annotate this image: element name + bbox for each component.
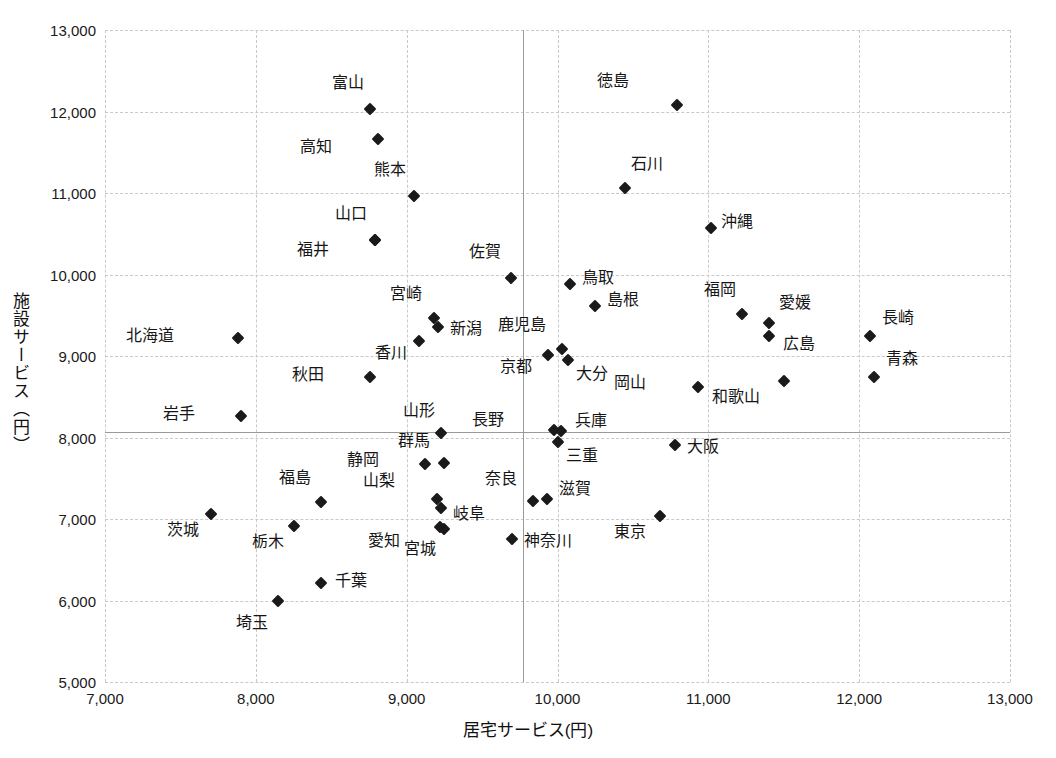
- data-point-marker[interactable]: [868, 371, 881, 384]
- data-point-marker[interactable]: [670, 99, 683, 112]
- data-point-marker[interactable]: [438, 456, 451, 469]
- data-point-label: 群馬: [398, 433, 430, 449]
- data-point-label: 石川: [631, 156, 663, 172]
- x-axis-tick-label: 10,000: [513, 690, 603, 707]
- data-point-label: 山形: [403, 403, 435, 419]
- data-point-label: 熊本: [374, 162, 406, 178]
- data-point-marker[interactable]: [654, 509, 667, 522]
- gridline-vertical: [558, 30, 559, 682]
- data-point-marker[interactable]: [418, 457, 431, 470]
- data-point-marker[interactable]: [762, 329, 775, 342]
- data-point-marker[interactable]: [589, 300, 602, 313]
- data-point-marker[interactable]: [542, 349, 555, 362]
- data-point-label: 鳥取: [582, 270, 614, 286]
- data-point-label: 沖縄: [721, 214, 753, 230]
- data-point-label: 福岡: [704, 282, 736, 298]
- data-point-marker[interactable]: [563, 278, 576, 291]
- data-point-marker[interactable]: [504, 271, 517, 284]
- data-point-label: 長崎: [882, 310, 914, 326]
- y-axis-tick-label: 9,000: [0, 348, 96, 365]
- data-point-label: 大分: [576, 366, 608, 382]
- data-point-label: 青森: [886, 351, 918, 367]
- data-point-marker[interactable]: [287, 520, 300, 533]
- data-point-label: 福島: [279, 470, 311, 486]
- data-point-label: 和歌山: [712, 389, 760, 405]
- y-axis-tick-label: 6,000: [0, 592, 96, 609]
- data-point-label: 富山: [332, 75, 364, 91]
- data-point-label: 岐阜: [453, 506, 485, 522]
- data-point-label: 奈良: [485, 471, 517, 487]
- y-axis-tick-label: 11,000: [0, 185, 96, 202]
- x-axis-tick-label: 13,000: [965, 690, 1055, 707]
- data-point-label: 新潟: [450, 321, 482, 337]
- gridline-vertical: [407, 30, 408, 682]
- data-point-marker[interactable]: [272, 595, 285, 608]
- data-point-label: 神奈川: [524, 533, 572, 549]
- data-point-marker[interactable]: [669, 438, 682, 451]
- data-point-label: 徳島: [597, 73, 629, 89]
- x-axis-tick-label: 9,000: [362, 690, 452, 707]
- y-axis-tick-label: 5,000: [0, 674, 96, 691]
- data-point-label: 兵庫: [575, 413, 607, 429]
- data-point-label: 三重: [566, 448, 598, 464]
- data-point-marker[interactable]: [364, 371, 377, 384]
- data-point-marker[interactable]: [527, 495, 540, 508]
- x-axis-tick-label: 8,000: [211, 690, 301, 707]
- data-point-marker[interactable]: [762, 317, 775, 330]
- data-point-label: 大阪: [687, 439, 719, 455]
- data-point-marker[interactable]: [314, 577, 327, 590]
- data-point-label: 宮崎: [390, 286, 422, 302]
- data-point-label: 東京: [614, 524, 646, 540]
- data-point-label: 宮城: [404, 541, 436, 557]
- data-point-marker[interactable]: [691, 381, 704, 394]
- chart-root: 施設サービス（円） 5,0006,0007,0008,0009,00010,00…: [0, 0, 1056, 758]
- x-axis-tick-label: 12,000: [814, 690, 904, 707]
- data-point-marker[interactable]: [506, 532, 519, 545]
- data-point-label: 山梨: [363, 473, 395, 489]
- data-point-marker[interactable]: [369, 234, 382, 247]
- data-point-label: 岩手: [163, 406, 195, 422]
- data-point-label: 福井: [297, 242, 329, 258]
- data-point-label: 茨城: [167, 522, 199, 538]
- data-point-marker[interactable]: [735, 307, 748, 320]
- data-point-label: 埼玉: [236, 615, 268, 631]
- data-point-label: 鹿児島: [498, 317, 546, 333]
- y-axis-tick-label: 7,000: [0, 511, 96, 528]
- y-axis-tick-label: 8,000: [0, 429, 96, 446]
- data-point-marker[interactable]: [412, 334, 425, 347]
- data-point-label: 秋田: [292, 367, 324, 383]
- data-point-label: 京都: [500, 359, 532, 375]
- gridline-vertical: [256, 30, 257, 682]
- data-point-marker[interactable]: [314, 496, 327, 509]
- data-point-marker[interactable]: [372, 133, 385, 146]
- data-point-marker[interactable]: [541, 493, 554, 506]
- data-point-marker[interactable]: [777, 375, 790, 388]
- data-point-label: 長野: [472, 412, 504, 428]
- data-point-label: 島根: [607, 292, 639, 308]
- data-point-label: 栃木: [252, 534, 284, 550]
- plot-area: 富山高知徳島熊本石川山口福井沖縄佐賀鳥取島根福岡宮崎愛媛新潟長崎広島北海道香川鹿…: [105, 30, 1010, 682]
- y-axis-tick-label: 12,000: [0, 103, 96, 120]
- x-axis-tick-label: 11,000: [663, 690, 753, 707]
- data-point-marker[interactable]: [705, 222, 718, 235]
- data-point-label: 北海道: [126, 328, 174, 344]
- data-point-marker[interactable]: [364, 103, 377, 116]
- data-point-label: 愛媛: [779, 295, 811, 311]
- y-axis-tick-label: 13,000: [0, 22, 96, 39]
- reference-line-vertical: [523, 30, 524, 682]
- x-axis-tick-label: 7,000: [60, 690, 150, 707]
- data-point-marker[interactable]: [863, 329, 876, 342]
- data-point-marker[interactable]: [231, 332, 244, 345]
- data-point-label: 香川: [375, 345, 407, 361]
- gridline-vertical: [708, 30, 709, 682]
- data-point-label: 山口: [335, 206, 367, 222]
- data-point-label: 滋賀: [559, 481, 591, 497]
- x-axis-title: 居宅サービス(円): [0, 716, 1056, 741]
- data-point-marker[interactable]: [234, 410, 247, 423]
- data-point-label: 愛知: [368, 533, 400, 549]
- data-point-label: 静岡: [347, 452, 379, 468]
- data-point-label: 岡山: [614, 375, 646, 391]
- data-point-marker[interactable]: [408, 190, 421, 203]
- gridline-horizontal: [105, 682, 1010, 683]
- gridline-vertical: [105, 30, 106, 682]
